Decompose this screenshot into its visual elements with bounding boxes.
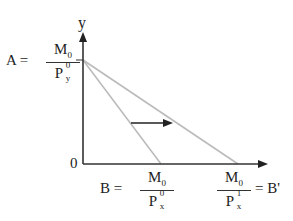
origin-label: 0 bbox=[70, 156, 78, 171]
y-axis-arrowhead-icon bbox=[79, 32, 87, 42]
label-b-name: B bbox=[100, 180, 110, 196]
new-budget-line bbox=[83, 60, 238, 164]
label-a-eq: = bbox=[20, 52, 28, 68]
y-axis-label: y bbox=[78, 15, 86, 31]
label-a-name: A bbox=[6, 52, 16, 68]
label-b-prime-eq: = bbox=[255, 180, 263, 196]
label-b-prime-name: B' bbox=[267, 180, 280, 196]
label-a-fraction: M0 P0y bbox=[46, 42, 80, 81]
x-axis-arrowhead-icon bbox=[258, 160, 268, 168]
label-b-fraction: M0 P0x bbox=[140, 170, 174, 209]
label-b-prime-fraction: M0 P1x bbox=[217, 170, 251, 209]
original-budget-line bbox=[83, 60, 161, 164]
label-b-eq: = bbox=[114, 180, 122, 196]
